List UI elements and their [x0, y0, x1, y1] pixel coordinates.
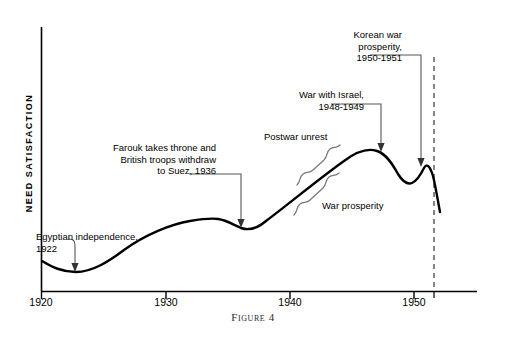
annotation-korean-war: Korean war prosperity, 1950-1951 — [300, 29, 402, 64]
chart-canvas — [0, 0, 506, 339]
arrowhead-korean — [417, 158, 424, 167]
figure-caption: Figure 4 — [0, 311, 506, 323]
figure-container: NEED SATISFACTION 1920 1930 1940 1950 Eg… — [0, 0, 506, 339]
leader-farouk — [189, 174, 241, 220]
x-tick-label-1940: 1940 — [278, 296, 301, 308]
x-tick-label-1920: 1920 — [29, 296, 52, 308]
x-tick-label-1930: 1930 — [154, 296, 177, 308]
annotation-war-prosperity: War prosperity — [322, 200, 422, 212]
x-tick-label-1950: 1950 — [402, 296, 425, 308]
annotation-war-with-israel: War with Israel, 1948-1949 — [258, 89, 364, 112]
annotation-farouk: Farouk takes throne and British troops w… — [84, 142, 216, 177]
y-axis-label: NEED SATISFACTION — [24, 83, 34, 223]
arrowhead-egyptian-independence — [71, 263, 78, 272]
annotation-postwar-unrest: Postwar unrest — [264, 131, 364, 143]
annotation-egyptian-independence: Egyptian independence, 1922 — [36, 231, 156, 254]
